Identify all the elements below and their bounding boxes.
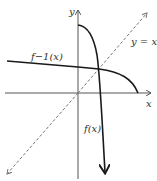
function-curve [78,25,105,172]
y-axis-label: y [68,6,75,17]
inverse-curve-label: f−1(x) [30,51,63,62]
identity-line-lower [7,93,78,174]
x-axis-label: x [146,98,152,109]
function-curve-label: f(x) [83,123,101,134]
identity-line-label: y = x [130,36,157,47]
inverse-curve [7,61,138,93]
graph-canvas: y x y = x f−1(x) f(x) [0,0,157,181]
identity-line [78,13,147,93]
